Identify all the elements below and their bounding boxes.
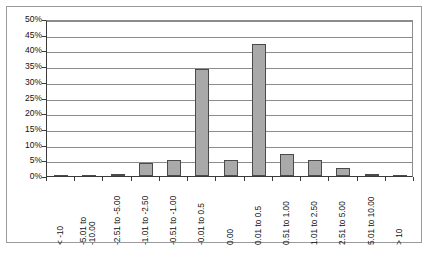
- x-axis-tick-mark: [328, 177, 329, 181]
- x-axis-tick-mark: [46, 177, 47, 181]
- x-axis-tick-mark: [244, 177, 245, 181]
- bar-chart: 50%45%40%35%30%25%20%15%10%5%0% < -10-5.…: [0, 0, 429, 253]
- bar: [393, 175, 407, 176]
- x-axis-tick-mark: [74, 177, 75, 181]
- y-axis-tick-label: 30%: [8, 78, 42, 87]
- y-axis-tick-label: 40%: [8, 46, 42, 55]
- x-axis-tick-label-line: -0.51 to -1.00: [169, 196, 178, 245]
- gridline: [47, 84, 412, 85]
- gridline: [47, 37, 412, 38]
- y-axis-tick-label: 35%: [8, 62, 42, 71]
- y-axis-tick-label: 20%: [8, 109, 42, 118]
- bar: [224, 160, 238, 176]
- bar: [195, 69, 209, 176]
- x-axis: < -10-5.01 to-10.00-2.51 to -5.00-1.01 t…: [46, 177, 413, 247]
- x-axis-tick-label-line: 0.00: [226, 229, 235, 245]
- x-axis-tick-mark: [187, 177, 188, 181]
- x-axis-tick-mark: [215, 177, 216, 181]
- bar: [54, 175, 68, 176]
- y-axis-tick-label: 45%: [8, 31, 42, 40]
- x-axis-tick-label-line: 1.01 to 2.50: [310, 201, 319, 245]
- x-axis-tick-mark: [102, 177, 103, 181]
- bar: [308, 160, 322, 176]
- x-axis-tick-label-line: 0.01 to 0.5: [254, 206, 263, 245]
- x-axis-tick-mark: [413, 177, 414, 181]
- x-axis-tick-mark: [300, 177, 301, 181]
- x-axis-tick-label-line: > 10: [395, 229, 404, 245]
- x-axis-tick-mark: [131, 177, 132, 181]
- bar: [252, 44, 266, 176]
- x-axis-tick-label-line: 0.51 to 1.00: [282, 201, 291, 245]
- gridline: [47, 68, 412, 69]
- x-axis-tick-label-line: 2.51 to 5.00: [338, 201, 347, 245]
- x-axis-tick-mark: [159, 177, 160, 181]
- y-axis-tick-label: 0%: [8, 172, 42, 181]
- gridline: [47, 131, 412, 132]
- gridline: [47, 115, 412, 116]
- y-axis-tick-label: 5%: [8, 156, 42, 165]
- bar: [365, 174, 379, 176]
- x-axis-tick-label-line: < -10: [56, 226, 65, 245]
- gridline: [47, 21, 412, 22]
- x-axis-tick-label-line: 5.01 to 10.00: [367, 197, 376, 245]
- y-axis-tick-label: 25%: [8, 94, 42, 103]
- gridline: [47, 147, 412, 148]
- x-axis-tick-label-line: -2.51 to -5.00: [113, 196, 122, 245]
- plot-area: [46, 20, 413, 177]
- x-axis-tick-label-line: -10.00: [88, 217, 97, 245]
- x-axis-tick-label-line: -0.01 to 0.5: [197, 203, 206, 245]
- y-axis-tick-label: 15%: [8, 125, 42, 134]
- bar: [139, 163, 153, 176]
- bar: [82, 175, 96, 176]
- bar: [336, 168, 350, 176]
- x-axis-tick-label-line: -1.01 to -2.50: [141, 196, 150, 245]
- x-axis-tick-mark: [357, 177, 358, 181]
- x-axis-tick-mark: [272, 177, 273, 181]
- bar: [167, 160, 181, 176]
- y-axis-tick-label: 50%: [8, 15, 42, 24]
- gridline: [47, 100, 412, 101]
- bar: [280, 154, 294, 176]
- y-axis-tick-label: 10%: [8, 141, 42, 150]
- x-axis-tick-mark: [385, 177, 386, 181]
- bar: [111, 174, 125, 176]
- gridline: [47, 52, 412, 53]
